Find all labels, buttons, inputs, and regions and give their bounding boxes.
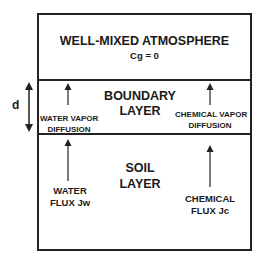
chemical-vapor-diffusion-label: CHEMICAL VAPOR DIFFUSION bbox=[175, 109, 245, 131]
water-flux-arrow-icon bbox=[63, 139, 73, 181]
soil-layer-label: SOIL LAYER bbox=[110, 160, 170, 192]
thickness-label: d bbox=[12, 98, 19, 112]
atmosphere-condition: Cg = 0 bbox=[37, 50, 252, 61]
chemical-flux-label: CHEMICAL FLUX Jc bbox=[182, 193, 238, 217]
double-arrow-icon bbox=[24, 82, 34, 132]
water-flux-label: WATER FLUX Jw bbox=[45, 185, 95, 209]
atmosphere-boundary-divider bbox=[37, 79, 252, 81]
atmosphere-title: WELL-MIXED ATMOSPHERE bbox=[37, 34, 252, 48]
water-vapor-arrow-icon bbox=[63, 83, 73, 105]
chemical-vapor-arrow-icon bbox=[205, 83, 215, 105]
chemical-flux-arrow-icon bbox=[205, 145, 215, 187]
boundary-layer-label: BOUNDARY LAYER bbox=[95, 89, 185, 119]
water-vapor-diffusion-label: WATER VAPOR DIFFUSION bbox=[40, 113, 98, 135]
